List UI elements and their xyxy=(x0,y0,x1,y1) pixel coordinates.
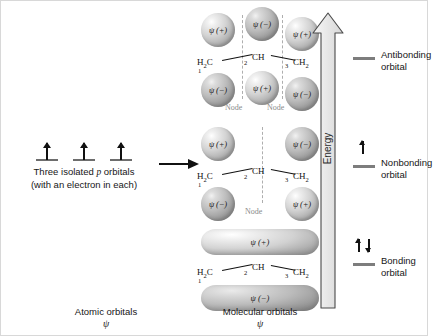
atomic-orbitals-caption: Three isolated p orbitals (with an elect… xyxy=(9,166,159,191)
energy-axis-arrow: Energy xyxy=(311,11,345,311)
electron-arrow-up xyxy=(46,143,48,160)
level-bar xyxy=(353,263,375,266)
node-label-1: Node xyxy=(245,207,262,216)
carbon-skeleton: H2C 1 CH 2 CH2 3 xyxy=(197,167,323,189)
level-bar xyxy=(353,165,375,168)
carbon-2-number: 2 xyxy=(244,173,247,180)
molecular-orbital-nonbonding: ψ (+) ψ (−) H2C 1 CH 2 CH2 3 ψ (−) ψ (+)… xyxy=(197,127,323,217)
lobe-row-top: ψ (+) ψ (−) xyxy=(197,127,323,161)
electron-arrow-down xyxy=(368,239,370,252)
footer-psi-symbol: ψ xyxy=(51,318,161,330)
carbon-1-number: 1 xyxy=(198,277,201,284)
label-line-1: Nonbonding xyxy=(381,157,437,169)
carbon-2-label: CH xyxy=(252,52,265,62)
label-line-2: orbital xyxy=(381,267,437,279)
bond-c1-c2 xyxy=(222,54,253,61)
molecular-orbital-bonding: ψ (+) H2C 1 CH 2 CH2 3 ψ (−) xyxy=(197,229,323,311)
lobe-label: ψ (−) xyxy=(201,199,235,209)
lobe-label: ψ (+) xyxy=(245,83,279,93)
orbital-lobe: ψ (+) xyxy=(201,127,235,161)
atomic-orbitals-footer-caption: Atomic orbitals ψ xyxy=(51,306,161,330)
bond-c1-c2 xyxy=(222,264,253,271)
carbon-2-label: CH xyxy=(252,166,265,176)
lobe-label: ψ (+) xyxy=(201,139,235,149)
electron-spin-group xyxy=(355,140,377,154)
bond-c1-c2 xyxy=(222,168,253,175)
orbital-lobe: ψ (−) xyxy=(201,73,235,107)
atomic-orbitals-group: Three isolated p orbitals (with an elect… xyxy=(9,137,159,191)
carbon-2-label: CH xyxy=(252,262,265,272)
lobe-row-top: ψ (+) xyxy=(197,229,323,257)
orbital-lobe: ψ (−) xyxy=(245,7,279,41)
electron-spin-group xyxy=(355,238,377,252)
bond-c2-c3 xyxy=(271,169,296,175)
caption-text-pre: Three isolated xyxy=(34,166,97,177)
carbon-2-number: 2 xyxy=(244,269,247,276)
diagram-canvas: Three isolated p orbitals (with an elect… xyxy=(1,1,427,335)
orbital-lobe-continuous: ψ (+) xyxy=(201,229,319,255)
caption-text-post: orbitals xyxy=(101,166,134,177)
footer-psi-symbol: ψ xyxy=(197,318,323,330)
orbital-lobe: ψ (+) xyxy=(201,13,235,47)
node-label-2: Node xyxy=(267,103,284,112)
lobe-row-bottom: ψ (−) ψ (+) ψ (−) xyxy=(197,73,323,107)
electron-arrow-up xyxy=(120,143,122,160)
electron-arrow-up xyxy=(358,239,360,252)
label-line-1: Antibonding xyxy=(381,49,437,61)
lobe-label: ψ (+) xyxy=(201,237,319,247)
lobe-label: ψ (−) xyxy=(201,85,235,95)
orbital-lobe: ψ (−) xyxy=(201,187,235,221)
footer-line-1: Atomic orbitals xyxy=(51,306,161,318)
label-line-2: orbital xyxy=(381,169,437,181)
lobe-label: ψ (+) xyxy=(201,25,235,35)
level-bar xyxy=(353,57,375,60)
bond-c2-c3 xyxy=(271,55,296,61)
p-orbital-3 xyxy=(110,137,132,161)
carbon-3-number: 3 xyxy=(285,176,288,183)
p-orbital-set xyxy=(36,137,132,161)
footer-line-1: Molecular orbitals xyxy=(197,306,323,318)
carbon-skeleton: H2C 1 CH 2 CH2 3 xyxy=(197,263,323,285)
lobe-label: ψ (−) xyxy=(201,293,319,303)
bond-c2-c3 xyxy=(271,265,296,271)
caption-line-2: (with an electron in each) xyxy=(9,179,159,192)
orbital-lobe: ψ (+) xyxy=(245,71,279,105)
lobe-label: ψ (−) xyxy=(245,19,279,29)
energy-axis-label: Energy xyxy=(322,109,333,189)
label-line-2: orbital xyxy=(381,61,437,73)
arrow-shaft xyxy=(159,163,189,165)
electron-arrow-up xyxy=(362,141,364,154)
energy-level-label: Bonding orbital xyxy=(381,255,437,278)
node-label-1: Node xyxy=(225,103,242,112)
molecular-orbitals-footer-caption: Molecular orbitals ψ xyxy=(197,306,323,330)
electron-arrow-up xyxy=(83,143,85,160)
transformation-arrow-icon xyxy=(159,158,201,170)
energy-level-label: Antibonding orbital xyxy=(381,49,437,72)
lobe-row-top: ψ (+) ψ (−) ψ (+) xyxy=(197,13,323,47)
p-orbital-2 xyxy=(73,137,95,161)
p-orbital-1 xyxy=(36,137,58,161)
carbon-3-number: 3 xyxy=(285,272,288,279)
molecular-orbital-antibonding: ψ (+) ψ (−) ψ (+) H2C 1 CH 2 CH2 3 ψ (−)… xyxy=(197,13,323,113)
carbon-3-number: 3 xyxy=(285,62,288,69)
carbon-2-number: 2 xyxy=(244,59,247,66)
label-line-1: Bonding xyxy=(381,255,437,267)
energy-level-label: Nonbonding orbital xyxy=(381,157,437,180)
